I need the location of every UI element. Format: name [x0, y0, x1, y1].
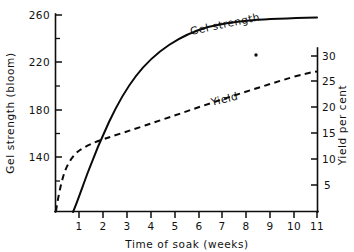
series-gel-strength-curve: [73, 18, 317, 212]
x-tick-label-7: 7: [218, 220, 225, 232]
chart-figure: 260 220 180 140 Gel strength (bloom) 30 …: [0, 0, 354, 252]
series-yield-curve: [56, 71, 317, 211]
right-tick-label-10: 10: [322, 153, 336, 165]
x-tick-label-8: 8: [242, 220, 249, 232]
x-tick-label-10: 10: [287, 220, 301, 232]
right-tick-label-20: 20: [322, 101, 336, 113]
left-tick-label-260: 260: [29, 9, 50, 21]
x-axis-title: Time of soak (weeks): [124, 238, 249, 250]
series-label-yield: Yield: [209, 90, 240, 109]
axes-frame: [55, 14, 318, 212]
x-tick-label-1: 1: [75, 220, 82, 232]
series-label-gel-strength: Gel strength: [189, 10, 261, 37]
x-tick-label-3: 3: [123, 220, 130, 232]
left-axis-title: Gel strength (bloom): [4, 52, 16, 173]
chart-canvas: 260 220 180 140 Gel strength (bloom) 30 …: [0, 0, 354, 252]
x-tick-label-5: 5: [171, 220, 178, 232]
left-tick-label-140: 140: [29, 151, 50, 163]
right-axis-tick-labels: 30 25 20 15 10 5: [322, 50, 336, 191]
right-tick-label-30: 30: [322, 50, 336, 62]
left-axis-tick-labels: 260 220 180 140: [29, 9, 50, 163]
right-tick-label-15: 15: [322, 127, 336, 139]
x-tick-label-2: 2: [99, 220, 106, 232]
scan-speck: [254, 53, 257, 56]
x-axis-tick-labels: 1 2 3 4 5 6 7 8 9 10 11: [75, 220, 324, 232]
x-tick-label-6: 6: [195, 220, 202, 232]
left-tick-label-220: 220: [29, 56, 50, 68]
right-axis-title: Yield per cent: [336, 85, 348, 167]
x-tick-label-11: 11: [310, 220, 324, 232]
left-tick-label-180: 180: [29, 104, 50, 116]
right-tick-label-5: 5: [324, 179, 331, 191]
x-axis-ticks: [79, 212, 317, 218]
right-tick-label-25: 25: [322, 75, 336, 87]
x-tick-label-9: 9: [266, 220, 273, 232]
x-tick-label-4: 4: [147, 220, 154, 232]
